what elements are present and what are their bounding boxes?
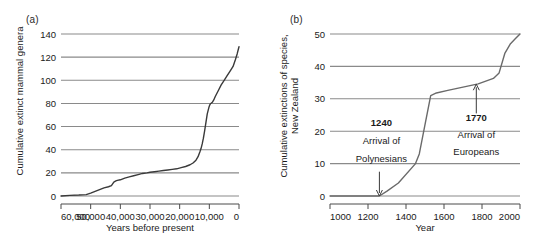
ytick-label-30: 30: [314, 93, 325, 104]
annotation-line2-european-arrival: Europeans: [453, 146, 499, 157]
ytick-label-40: 40: [314, 61, 325, 72]
xtick-label-1600: 1600: [433, 211, 454, 222]
ytick-label-140: 140: [40, 29, 56, 40]
ytick-label-10: 10: [314, 158, 325, 169]
xtick-label-40,000: 40,000: [106, 211, 135, 222]
xtick-label-10,000: 10,000: [195, 211, 224, 222]
panel-a-plot: 02040608010012014060,00050,00040,00030,0…: [0, 0, 268, 245]
xtick-label-30,000: 30,000: [135, 211, 164, 222]
ytick-label-40: 40: [45, 144, 56, 155]
ytick-label-20: 20: [45, 167, 56, 178]
ytick-label-20: 20: [314, 126, 325, 137]
ytick-label-0: 0: [320, 191, 325, 202]
xtick-label-0: 0: [234, 211, 239, 222]
figure-container: (a) Cumulative extinct mammal genera Yea…: [0, 0, 538, 245]
xtick-label-2000: 2000: [499, 211, 520, 222]
annotation-line2-polynesian-arrival: Polynesians: [356, 153, 407, 164]
xtick-label-1000: 1000: [330, 211, 351, 222]
ytick-label-50: 50: [314, 29, 325, 40]
data-line-extinct-mammal-genera: [61, 47, 239, 196]
data-line-nz-extinctions: [330, 34, 520, 196]
xtick-label-1400: 1400: [395, 211, 416, 222]
xtick-label-50,000: 50,000: [76, 211, 105, 222]
ytick-label-80: 80: [45, 98, 56, 109]
ytick-label-100: 100: [40, 75, 56, 86]
xtick-label-1800: 1800: [471, 211, 492, 222]
annotation-european-arrival: 1770Arrival ofEuropeans: [453, 84, 499, 156]
xtick-label-20,000: 20,000: [165, 211, 194, 222]
annotation-polynesian-arrival: 1240Arrival ofPolynesians: [356, 117, 407, 196]
annotation-year-1770: 1770: [466, 112, 487, 123]
panel-a: (a) Cumulative extinct mammal genera Yea…: [0, 0, 268, 245]
xtick-label-1200: 1200: [357, 211, 378, 222]
ytick-label-0: 0: [51, 191, 56, 202]
panel-b-plot: 010203040501000120014001600180020001240A…: [268, 0, 538, 245]
annotation-year-1240: 1240: [371, 117, 392, 128]
ytick-label-120: 120: [40, 52, 56, 63]
ytick-label-60: 60: [45, 121, 56, 132]
annotation-line1-polynesian-arrival: Arrival of: [363, 135, 401, 146]
panel-b: (b) Cumulative extinctions of species,Ne…: [268, 0, 538, 245]
annotation-line1-european-arrival: Arrival of: [458, 129, 496, 140]
